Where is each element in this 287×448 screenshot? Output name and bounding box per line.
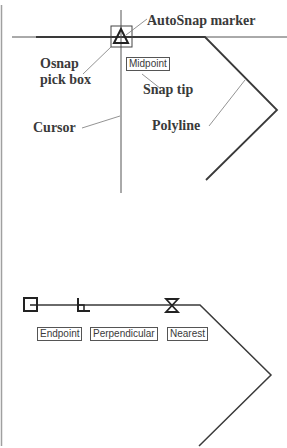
nearest-snap-tip: Nearest: [167, 327, 208, 341]
endpoint-snap-tip: Endpoint: [37, 327, 82, 341]
cursor-label: Cursor: [33, 120, 76, 135]
perpendicular-snap-tip: Perpendicular: [90, 327, 158, 341]
endpoint-square-icon: [24, 298, 37, 311]
midpoint-snap-tip: Midpoint: [126, 57, 170, 71]
autosnap-marker-label: AutoSnap marker: [147, 13, 256, 28]
polyline-label: Polyline: [152, 118, 200, 133]
snap-tip-label: Snap tip: [143, 82, 193, 97]
pickbox-leader: [83, 46, 112, 74]
autosnap-leader: [126, 19, 147, 35]
polyline-leader: [209, 80, 245, 126]
osnap-label-line2: pick box: [40, 72, 91, 87]
cursor-leader: [82, 116, 120, 128]
osnap-label-line1: Osnap: [40, 56, 79, 71]
